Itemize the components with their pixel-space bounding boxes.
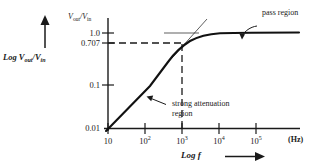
- y-axis-title-v: V: [19, 52, 25, 62]
- x-tick-label-100-base: 10: [139, 136, 148, 146]
- x-tick-label-10: 10: [94, 135, 122, 146]
- x-axis-direction-arrowhead: [255, 152, 265, 161]
- x-tick-label-100000-base: 10: [250, 136, 259, 146]
- x-tick-label-1000-exp: 3: [185, 135, 188, 141]
- x-axis-unit-label: (Hz): [288, 135, 303, 144]
- pass-region-label: pass region: [262, 8, 298, 18]
- x-tick-label-100000: 105: [242, 135, 270, 146]
- strong-attenuation-arrowhead: [147, 96, 154, 102]
- bode-plot-figure: Vout/Vin Log Vout/Vin 1.0 0.707 0.1 0.01…: [0, 0, 334, 168]
- y-axis-title-slash: /V: [33, 52, 41, 62]
- x-axis-title: Log f: [181, 150, 201, 160]
- x-tick-label-100-exp: 2: [148, 135, 151, 141]
- x-tick-label-10-base: 10: [104, 136, 113, 146]
- strong-attenuation-region-label: strong attenuation region: [172, 99, 230, 119]
- strong-attenuation-leader: [150, 98, 166, 105]
- x-tick-label-10000: 104: [205, 135, 233, 146]
- y-tick-label-0.707: 0.707: [56, 38, 100, 48]
- pass-region-arrowhead: [239, 34, 245, 40]
- x-tick-label-1000-base: 10: [176, 136, 185, 146]
- x-tick-label-100: 102: [131, 135, 159, 146]
- y-axis-top-label: Vout/Vin: [68, 12, 91, 21]
- strong-attenuation-region-label-line2: region: [172, 109, 230, 119]
- x-tick-label-10000-exp: 4: [222, 135, 225, 141]
- y-axis-title-sub-in: in: [41, 57, 46, 63]
- y-tick-label-0.01: 0.01: [56, 123, 100, 133]
- chart-canvas: [0, 0, 334, 168]
- x-tick-label-100000-exp: 5: [259, 135, 262, 141]
- x-tick-label-10000-base: 10: [213, 136, 222, 146]
- y-axis-title: Log Vout/Vin: [3, 52, 46, 62]
- x-tick-label-1000: 103: [168, 135, 196, 146]
- y-tick-label-1.0: 1.0: [56, 28, 100, 38]
- y-tick-label-0.1: 0.1: [56, 80, 100, 90]
- y-axis-title-sub-out: out: [25, 57, 33, 63]
- y-axis-top-sub-in: in: [87, 16, 91, 22]
- y-axis-top-sub-out: out: [73, 16, 80, 22]
- strong-attenuation-region-label-line1: strong attenuation: [172, 99, 230, 109]
- y-axis-direction-arrowhead: [41, 15, 50, 25]
- y-axis-title-log: Log: [3, 52, 17, 62]
- y-axis-top-slash: /V: [80, 12, 87, 21]
